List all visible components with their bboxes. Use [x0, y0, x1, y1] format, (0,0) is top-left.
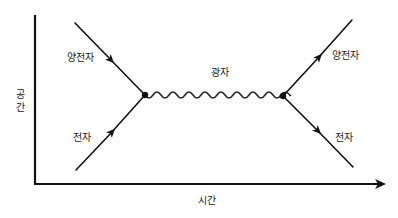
- photon-wave: [145, 92, 291, 98]
- x-axis-label: 시간: [198, 195, 216, 206]
- y-axis-label-char-2: 간: [16, 102, 25, 113]
- y-axis-label-char-1: 공: [16, 89, 25, 100]
- incoming-positron-label: 양전자: [67, 52, 94, 63]
- left-vertex-dot: [142, 92, 148, 98]
- right-vertex-dot: [280, 93, 286, 99]
- photon-label: 광자: [211, 67, 229, 78]
- incoming-electron-label: 전자: [73, 132, 91, 143]
- feynman-diagram: 공 간 시간 양전자 전자 광자 양전자 전자: [0, 0, 398, 218]
- outgoing-positron-label: 양전자: [332, 50, 359, 61]
- outgoing-electron-label: 전자: [335, 132, 353, 143]
